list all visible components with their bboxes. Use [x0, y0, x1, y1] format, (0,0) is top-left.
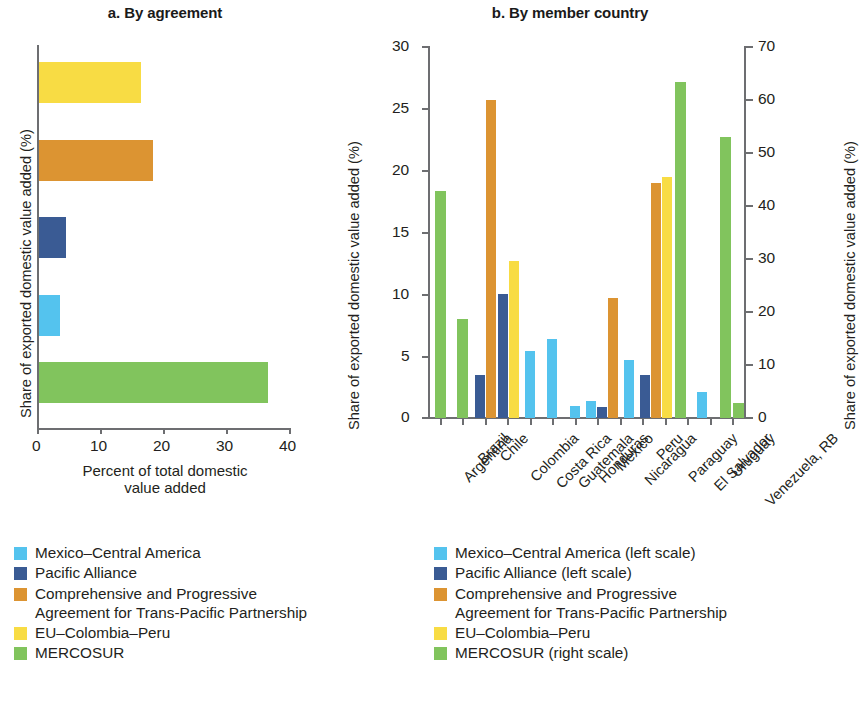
- panel-b-title: b. By member country: [360, 4, 780, 21]
- legend-b-swatch-mexico-central-america: [434, 547, 447, 560]
- panel-b-bar-peru-pacific-alliance: [640, 375, 650, 418]
- panel-b-y-tick-left-0: [422, 417, 429, 419]
- panel-b-x-tick-honduras: [575, 419, 577, 425]
- panel-a-bar-cptpp: [39, 140, 153, 181]
- panel-b-y-tick-left-25: [422, 108, 429, 110]
- panel-a-x-axis-label-line1: Percent of total domestic: [82, 462, 247, 479]
- panel-b-x-tick-el-salvador: [687, 419, 689, 425]
- panel-a-x-tick-label-40: 40: [279, 437, 296, 455]
- panel-a-bar-mercosur: [39, 362, 268, 403]
- legend-panel-a: Mexico–Central America Pacific Alliance …: [14, 543, 314, 664]
- panel-b-y-tick-label-left-15: 15: [392, 223, 409, 241]
- panel-b-x-tick-argentina: [440, 419, 442, 425]
- legend-a-item-cptpp: Comprehensive and Progressive Agreement …: [14, 584, 314, 623]
- panel-b-x-tick-colombia: [507, 419, 509, 425]
- legend-a-label-eu-colombia-peru: EU–Colombia–Peru: [35, 623, 170, 642]
- legend-b-item-eu-colombia-peru: EU–Colombia–Peru: [434, 623, 774, 642]
- panel-b-x-tick-paraguay: [665, 419, 667, 425]
- panel-b-y-tick-label-right-50: 50: [758, 143, 775, 161]
- panel-b-bar-colombia-pacific-alliance: [498, 294, 508, 418]
- panel-b-bar-guatemala-mexico-central-america: [547, 339, 557, 418]
- panel-b-y-tick-label-left-5: 5: [401, 347, 410, 365]
- panel-b-y-tick-label-right-30: 30: [758, 249, 775, 267]
- panel-b-bar-brazil-mercosur: [457, 319, 468, 418]
- legend-b-label-pacific-alliance: Pacific Alliance (left scale): [455, 563, 632, 582]
- legend-b-label-mexico-central-america: Mexico–Central America (left scale): [455, 543, 696, 562]
- legend-a-swatch-mercosur: [14, 647, 27, 660]
- legend-a-item-pacific-alliance: Pacific Alliance: [14, 563, 314, 582]
- panel-b-y-tick-label-right-20: 20: [758, 302, 775, 320]
- panel-b-bar-chile-cptpp: [486, 100, 496, 418]
- panel-b-y-tick-label-left-30: 30: [392, 37, 409, 55]
- panel-b-bar-mexico-cptpp: [608, 298, 618, 418]
- legend-a-label-mexico-central-america: Mexico–Central America: [35, 543, 201, 562]
- panel-a-x-axis-label-line2: value added: [124, 479, 206, 496]
- legend-b-label-mercosur: MERCOSUR (right scale): [455, 643, 628, 662]
- legend-a-item-eu-colombia-peru: EU–Colombia–Peru: [14, 623, 314, 642]
- panel-b-y-axis-label-right: Share of exported domestic value added (…: [842, 141, 859, 430]
- panel-b-y-tick-right-10: [746, 364, 753, 366]
- panel-a-x-tick-20: [163, 428, 165, 434]
- legend-b-item-mexico-central-america: Mexico–Central America (left scale): [434, 543, 774, 562]
- panel-a-bar-pacific-alliance: [39, 217, 66, 258]
- panel-b-bar-costa-rica-mexico-central-america: [525, 351, 535, 418]
- legend-b-item-mercosur: MERCOSUR (right scale): [434, 643, 774, 662]
- panel-b-bar-venezuela-mercosur: [733, 403, 744, 418]
- panel-b-y-axis-label-left: Share of exported domestic value added (…: [346, 141, 363, 430]
- panel-b-y-tick-right-50: [746, 152, 753, 154]
- panel-b-y-tick-right-70: [746, 46, 753, 48]
- panel-b-x-tick-uruguay: [710, 419, 712, 425]
- panel-b-y-tick-right-30: [746, 258, 753, 260]
- legend-a-item-mexico-central-america: Mexico–Central America: [14, 543, 314, 562]
- panel-b-y-tick-left-30: [422, 46, 429, 48]
- panel-b-bar-peru-eu-colombia-peru: [662, 177, 672, 418]
- panel-b-bar-paraguay-mercosur: [675, 82, 686, 418]
- panel-b-bar-honduras-mexico-central-america: [570, 406, 580, 418]
- panel-b-bar-mexico-pacific-alliance: [597, 407, 607, 418]
- panel-b-y-tick-left-5: [422, 356, 429, 358]
- panel-a-x-tick-0: [37, 428, 39, 434]
- legend-b-label-eu-colombia-peru: EU–Colombia–Peru: [455, 623, 590, 642]
- panel-b-y-tick-label-left-20: 20: [392, 161, 409, 179]
- legend-a-item-mercosur: MERCOSUR: [14, 643, 314, 662]
- legend-panel-b: Mexico–Central America (left scale) Paci…: [434, 543, 774, 664]
- panel-b-bar-nicaragua-mexico-central-america: [624, 360, 634, 418]
- legend-a-label-cptpp: Comprehensive and Progressive Agreement …: [35, 584, 310, 623]
- panel-b-y-tick-left-15: [422, 232, 429, 234]
- panel-b-y-tick-label-left-25: 25: [392, 99, 409, 117]
- panel-b-bar-mexico-mexico-central-america: [586, 401, 596, 418]
- panel-b-bar-chile-pacific-alliance: [475, 375, 485, 418]
- panel-a-y-axis-label: Share of exported domestic value added (…: [18, 129, 35, 418]
- panel-b-x-tick-guatemala: [552, 419, 554, 425]
- panel-b-x-tick-venezuela: [732, 419, 734, 425]
- legend-a-label-mercosur: MERCOSUR: [35, 643, 124, 662]
- panel-a-x-tick-label-30: 30: [216, 437, 233, 455]
- legend-b-swatch-cptpp: [434, 588, 447, 601]
- panel-b-bar-argentina-mercosur: [435, 191, 446, 418]
- panel-b-bar-colombia-eu-colombia-peru: [509, 261, 519, 418]
- panel-b-y-tick-right-0: [746, 417, 753, 419]
- panel-b-y-tick-label-right-60: 60: [758, 90, 775, 108]
- panel-b-x-tick-peru: [642, 419, 644, 425]
- panel-a-x-tick-10: [100, 428, 102, 434]
- panel-a-x-tick-30: [226, 428, 228, 434]
- legend-b-item-pacific-alliance: Pacific Alliance (left scale): [434, 563, 774, 582]
- panel-b-y-tick-right-40: [746, 205, 753, 207]
- panel-a-x-axis-label: Percent of total domestic value added: [30, 462, 300, 496]
- legend-a-swatch-cptpp: [14, 588, 27, 601]
- panel-a-bar-mexico-central-america: [39, 295, 60, 336]
- panel-a-title: a. By agreement: [0, 4, 330, 21]
- panel-b-by-member-country: b. By member country Share of exported d…: [330, 0, 849, 520]
- panel-a-by-agreement: a. By agreement Share of exported domest…: [0, 0, 330, 520]
- panel-b-y-tick-label-right-40: 40: [758, 196, 775, 214]
- panel-b-y-tick-label-left-10: 10: [392, 285, 409, 303]
- panel-b-y-tick-left-10: [422, 294, 429, 296]
- panel-b-y-tick-label-right-0: 0: [758, 408, 767, 426]
- legend-a-swatch-mexico-central-america: [14, 547, 27, 560]
- legend-b-swatch-eu-colombia-peru: [434, 627, 447, 640]
- panel-a-bar-eu-colombia-peru: [39, 62, 141, 103]
- panel-b-y-tick-label-left-0: 0: [401, 408, 410, 426]
- legend-a-swatch-pacific-alliance: [14, 567, 27, 580]
- legend-a-label-pacific-alliance: Pacific Alliance: [35, 563, 137, 582]
